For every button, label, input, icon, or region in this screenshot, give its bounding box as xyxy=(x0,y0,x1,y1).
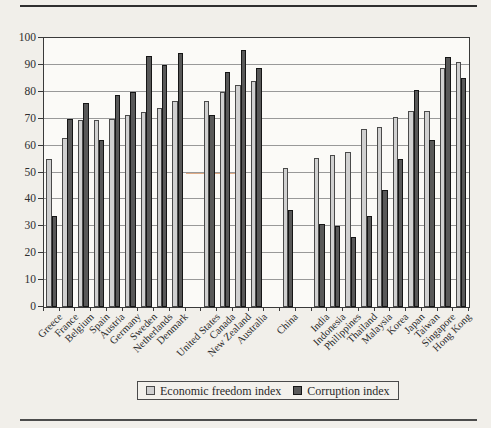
y-axis-label-100: 100 xyxy=(4,30,36,44)
x-axis-tick xyxy=(374,307,375,311)
bar-korea-corruption xyxy=(398,159,403,307)
x-axis-tick xyxy=(405,307,406,311)
bar-china-corruption xyxy=(288,210,293,307)
x-axis-tick xyxy=(59,307,60,311)
y-axis-tick xyxy=(38,279,43,280)
bar-indonesia-corruption xyxy=(335,226,340,307)
bar-australia-corruption xyxy=(256,68,261,307)
x-axis-tick xyxy=(311,307,312,311)
x-axis-tick xyxy=(263,307,264,311)
x-axis-tick xyxy=(468,307,469,311)
x-axis-tick xyxy=(216,307,217,311)
x-axis-tick xyxy=(137,307,138,311)
x-axis-tick xyxy=(421,307,422,311)
bar-sweden-corruption xyxy=(146,56,151,308)
y-axis-tick xyxy=(38,252,43,253)
bar-spain-corruption xyxy=(99,140,104,307)
y-axis-tick xyxy=(38,172,43,173)
gridline-90 xyxy=(44,64,469,65)
y-axis-tick xyxy=(38,64,43,65)
bar-japan-corruption xyxy=(414,90,419,307)
bar-france-corruption xyxy=(67,119,72,307)
bar-belgium-corruption xyxy=(83,103,88,307)
x-axis-tick xyxy=(185,307,186,311)
bar-denmark-corruption xyxy=(178,53,183,307)
scanned-chart-page: 0102030405060708090100GreeceFranceBelgiu… xyxy=(0,0,491,428)
x-axis-tick xyxy=(232,307,233,311)
corruption-swatch-icon xyxy=(293,386,302,395)
y-axis-label-50: 50 xyxy=(4,165,36,179)
legend: Economic freedom index Corruption index xyxy=(137,381,399,400)
bar-india-corruption xyxy=(319,224,324,307)
y-axis-label-0: 0 xyxy=(4,299,36,313)
x-axis-tick xyxy=(437,307,438,311)
x-axis-label-china: China xyxy=(275,311,301,337)
bar-united-states-corruption xyxy=(209,115,214,307)
x-axis-tick xyxy=(169,307,170,311)
legend-item-economic-freedom: Economic freedom index xyxy=(146,385,281,397)
bar-germany-corruption xyxy=(130,92,135,307)
bar-netherlands-corruption xyxy=(162,65,167,307)
y-axis-tick xyxy=(38,37,43,38)
x-axis-tick xyxy=(122,307,123,311)
bar-new-zealand-corruption xyxy=(241,50,246,307)
x-axis-tick xyxy=(326,307,327,311)
x-axis-tick xyxy=(90,307,91,311)
bar-taiwan-corruption xyxy=(429,140,434,307)
bottom-rule xyxy=(20,419,477,421)
legend-label-economic-freedom: Economic freedom index xyxy=(160,385,281,397)
x-axis-tick xyxy=(74,307,75,311)
bar-austria-corruption xyxy=(115,95,120,308)
bar-chart-plot-area xyxy=(43,37,470,308)
x-axis-tick xyxy=(153,307,154,311)
y-axis-label-10: 10 xyxy=(4,272,36,286)
x-axis-tick xyxy=(106,307,107,311)
y-axis-label-20: 20 xyxy=(4,245,36,259)
x-axis-tick xyxy=(43,307,44,311)
x-axis-tick xyxy=(389,307,390,311)
y-axis-label-70: 70 xyxy=(4,111,36,125)
x-axis-tick xyxy=(358,307,359,311)
y-axis-label-90: 90 xyxy=(4,57,36,71)
bar-philippines-corruption xyxy=(351,237,356,307)
y-axis-tick xyxy=(38,91,43,92)
x-axis-tick xyxy=(248,307,249,311)
bar-thailand-corruption xyxy=(367,216,372,307)
y-axis-label-30: 30 xyxy=(4,218,36,232)
bar-hong-kong-corruption xyxy=(461,78,466,307)
y-axis-label-40: 40 xyxy=(4,191,36,205)
bar-greece-corruption xyxy=(52,216,57,307)
legend-label-corruption: Corruption index xyxy=(307,385,389,397)
legend-item-corruption: Corruption index xyxy=(293,385,389,397)
x-axis-tick xyxy=(279,307,280,311)
x-axis-tick xyxy=(295,307,296,311)
y-axis-tick xyxy=(38,225,43,226)
top-rule xyxy=(20,5,477,7)
y-axis-tick xyxy=(38,118,43,119)
economic-freedom-swatch-icon xyxy=(146,386,155,395)
x-axis-tick xyxy=(200,307,201,311)
y-axis-label-80: 80 xyxy=(4,84,36,98)
bar-canada-corruption xyxy=(225,72,230,307)
x-axis-tick xyxy=(452,307,453,311)
x-axis-tick xyxy=(342,307,343,311)
y-axis-tick xyxy=(38,145,43,146)
y-axis-tick xyxy=(38,198,43,199)
bar-malaysia-corruption xyxy=(382,190,387,307)
y-axis-label-60: 60 xyxy=(4,138,36,152)
bar-singapore-corruption xyxy=(445,57,450,307)
